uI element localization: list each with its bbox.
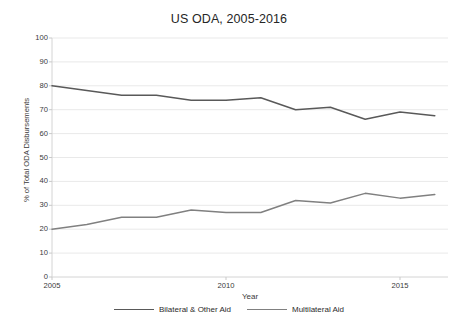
y-tick-label: 40	[22, 176, 48, 185]
y-tick-label: 70	[22, 105, 48, 114]
legend-entry[interactable]: Bilateral & Other Aid	[114, 305, 231, 314]
legend-label: Multilateral Aid	[292, 305, 344, 314]
y-tick-label: 90	[22, 57, 48, 66]
y-tick-label: 80	[22, 81, 48, 90]
chart-legend: Bilateral & Other AidMultilateral Aid	[0, 305, 458, 314]
y-tick-label: 20	[22, 224, 48, 233]
legend-line-swatch	[114, 309, 154, 310]
y-tick-label: 10	[22, 248, 48, 257]
y-tick-label: 60	[22, 129, 48, 138]
caption-partial	[0, 330, 458, 336]
x-axis-title: Year	[52, 292, 448, 301]
x-tick-label: 2010	[206, 281, 246, 290]
chart-container: US ODA, 2005-2016 % of Total ODA Disburs…	[0, 0, 458, 336]
gridlines	[52, 38, 448, 253]
axis-ticks	[49, 38, 400, 280]
y-tick-label: 100	[22, 33, 48, 42]
legend-entry[interactable]: Multilateral Aid	[247, 305, 344, 314]
legend-line-swatch	[247, 309, 287, 310]
y-tick-label: 30	[22, 200, 48, 209]
x-tick-label: 2005	[32, 281, 72, 290]
x-tick-label: 2015	[380, 281, 420, 290]
y-tick-label: 50	[22, 153, 48, 162]
y-tick-label: 0	[22, 272, 48, 281]
legend-label: Bilateral & Other Aid	[159, 305, 231, 314]
